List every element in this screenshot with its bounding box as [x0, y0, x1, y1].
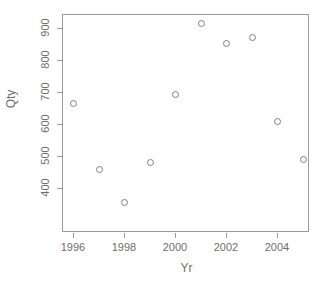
- y-tick-label: 600: [0, 118, 54, 129]
- plot-area-border: [62, 14, 309, 232]
- x-tick-mark: [277, 233, 278, 238]
- y-tick-mark: [57, 28, 62, 29]
- x-tick-mark: [73, 233, 74, 238]
- y-tick-mark: [57, 92, 62, 93]
- data-point: [147, 159, 154, 166]
- x-tick-label: 2004: [257, 241, 297, 253]
- data-point: [249, 34, 256, 41]
- y-tick-mark: [57, 60, 62, 61]
- y-tick-mark: [57, 156, 62, 157]
- y-tick-label: 400: [0, 182, 54, 193]
- data-point: [172, 91, 179, 98]
- y-tick-label-text: 700: [39, 82, 50, 100]
- y-tick-label-text: 800: [39, 50, 50, 68]
- x-axis-title: Yr: [0, 262, 323, 274]
- y-tick-mark: [57, 188, 62, 189]
- x-tick-mark: [175, 233, 176, 238]
- y-tick-label: 900: [0, 22, 54, 33]
- x-tick-label: 2000: [155, 241, 195, 253]
- y-tick-label-text: 900: [39, 18, 50, 36]
- x-tick-label: 1996: [53, 241, 93, 253]
- scatter-plot: 400500600700800900 19961998200020022004 …: [0, 0, 323, 292]
- data-point: [223, 40, 230, 47]
- x-tick-label: 1998: [104, 241, 144, 253]
- y-tick-label-text: 400: [39, 178, 50, 196]
- y-tick-label-text: 500: [39, 146, 50, 164]
- y-tick-label: 800: [0, 54, 54, 65]
- x-tick-mark: [226, 233, 227, 238]
- data-point: [274, 118, 281, 125]
- data-point: [96, 166, 103, 173]
- y-tick-mark: [57, 124, 62, 125]
- data-point: [300, 156, 307, 163]
- y-tick-label-text: 600: [39, 114, 50, 132]
- x-tick-mark: [124, 233, 125, 238]
- y-axis-title: Qty: [5, 79, 17, 119]
- x-tick-label: 2002: [206, 241, 246, 253]
- y-tick-label: 500: [0, 150, 54, 161]
- data-point: [198, 20, 205, 27]
